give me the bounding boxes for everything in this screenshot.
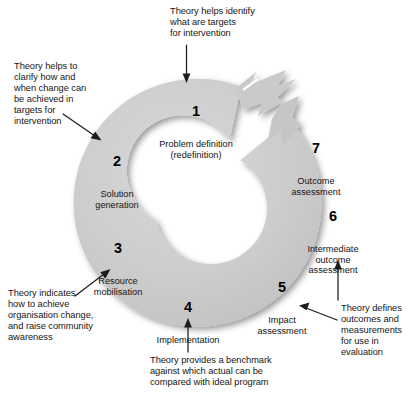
caption-right-lower: Theory defines outcomes and measurements… — [341, 303, 412, 358]
step-5-label: Impact assessment — [240, 315, 324, 336]
step-2-number: 2 — [77, 154, 157, 169]
step-4-label: Implementation — [140, 335, 236, 346]
step-4: 4 Implementation — [140, 281, 236, 365]
caption-left-upper: Theory helps to clarify how and when cha… — [14, 61, 119, 127]
step-1-label: Problem definition (redefinition) — [141, 139, 251, 160]
step-7: 7 Outcome assessment — [274, 122, 358, 216]
step-2-label: Solution generation — [77, 189, 157, 210]
step-7-number: 7 — [274, 141, 358, 156]
step-4-number: 4 — [140, 300, 236, 315]
step-6-label: Intermediate outcome assessment — [288, 244, 378, 276]
diagram-canvas: Theory helps identify what are targets f… — [0, 0, 412, 403]
step-7-label: Outcome assessment — [274, 176, 358, 197]
caption-top: Theory helps identify what are targets f… — [170, 6, 295, 39]
step-1-number: 1 — [141, 104, 251, 119]
step-1: 1 Problem definition (redefinition) — [141, 85, 251, 179]
arrow-top-to-step1 — [183, 45, 191, 83]
step-2: 2 Solution generation — [77, 135, 157, 229]
step-3-number: 3 — [75, 241, 161, 256]
